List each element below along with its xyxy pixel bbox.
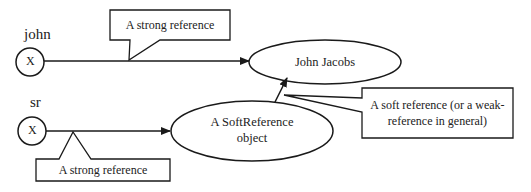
soft-reference-text-line1: A soft reference (or a weak-: [362, 97, 513, 113]
soft-reference-arrow: [275, 78, 287, 102]
sr-variable-label: sr: [30, 94, 41, 111]
john-jacobs-label: John Jacobs: [249, 54, 401, 70]
sr-variable-glyph: X: [28, 123, 37, 138]
john-variable-label: john: [24, 26, 51, 43]
bottom-strong-reference-text: A strong reference: [36, 162, 170, 178]
soft-reference-object-label-line2: object: [171, 130, 333, 146]
top-strong-reference-text: A strong reference: [110, 17, 230, 33]
john-variable-glyph: X: [26, 54, 35, 69]
soft-reference-object-label-line1: A SoftReference: [171, 114, 333, 130]
soft-reference-text-line2: reference in general): [362, 113, 513, 129]
